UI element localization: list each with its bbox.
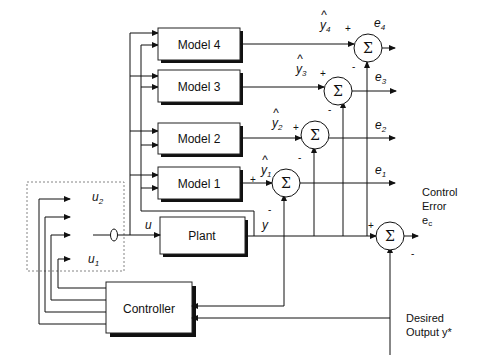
sum-junction-control-error: Σ <box>376 222 404 250</box>
svg-text:y4: y4 <box>319 18 331 34</box>
switch-region <box>27 182 124 271</box>
svg-text:Σ: Σ <box>333 83 343 99</box>
sum-junction-3: Σ <box>324 77 352 105</box>
sum3-minus: - <box>328 104 331 115</box>
svg-text:Σ: Σ <box>385 228 395 244</box>
y-label: y <box>261 218 269 232</box>
e4-label: e4 <box>374 16 386 32</box>
model4-label: Model 4 <box>178 38 221 52</box>
model2-block: Model 2 <box>158 123 243 157</box>
sum-junction-2: Σ <box>301 121 329 149</box>
svg-text:Σ: Σ <box>310 127 320 143</box>
sum4-minus: - <box>352 61 355 72</box>
sum3-plus: + <box>320 68 326 79</box>
switch-icon <box>111 229 118 241</box>
e2-label: e2 <box>375 118 387 134</box>
yhat4-label: ^ y4 <box>319 8 331 34</box>
svg-text:y2: y2 <box>271 116 283 132</box>
u1-label: u1 <box>88 252 99 268</box>
model3-block: Model 3 <box>158 70 243 105</box>
control-error-label-line2: Error <box>422 200 447 212</box>
controller-label: Controller <box>123 302 175 316</box>
desired-output-label-line2: Output y* <box>406 326 453 338</box>
svg-text:y3: y3 <box>295 62 307 78</box>
u2-label: u2 <box>92 190 104 206</box>
plant-label: Plant <box>188 229 216 243</box>
yhat3-label: ^ y3 <box>295 52 307 78</box>
control-error-label-line1: Control <box>422 186 457 198</box>
svg-text:Σ: Σ <box>281 175 291 191</box>
sum4-plus: + <box>345 23 351 34</box>
sum-junction-4: Σ <box>354 34 382 62</box>
yhat1-label: ^ y1 <box>260 153 271 179</box>
multiple-model-control-diagram: Model 4 Model 3 Model 2 Model 1 Plant Co… <box>0 0 484 357</box>
desired-output-label-line1: Desired <box>406 312 444 324</box>
model1-block: Model 1 <box>158 167 243 202</box>
yhat2-label: ^ y2 <box>271 106 283 132</box>
svg-text:y1: y1 <box>260 163 271 179</box>
e1-label: e1 <box>375 163 386 179</box>
sum1-minus: - <box>268 204 271 215</box>
sum2-minus: - <box>298 152 301 163</box>
svg-text:Σ: Σ <box>363 40 373 56</box>
model1-label: Model 1 <box>178 177 221 191</box>
model2-label: Model 2 <box>178 132 221 146</box>
sum1-plus: + <box>250 174 256 185</box>
sumc-minus: - <box>411 248 414 259</box>
controller-block: Controller <box>106 282 196 337</box>
e3-label: e3 <box>375 70 387 86</box>
model3-label: Model 3 <box>178 80 221 94</box>
sum2-plus: + <box>293 122 299 133</box>
sumc-plus: + <box>368 220 374 231</box>
ec-label: ec <box>422 214 432 228</box>
sum-junction-1: Σ <box>272 169 300 197</box>
u-label: u <box>145 218 152 232</box>
model4-block: Model 4 <box>158 28 243 63</box>
plant-block: Plant <box>160 217 248 257</box>
